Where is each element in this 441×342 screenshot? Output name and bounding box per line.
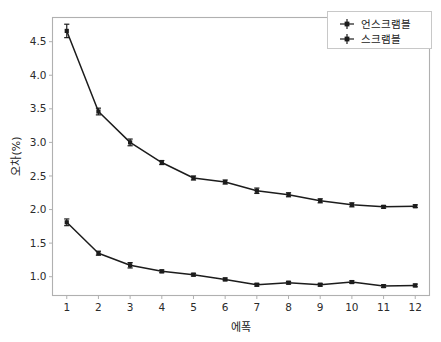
x-tick-label: 7 <box>253 301 260 313</box>
data-point-marker <box>286 281 290 285</box>
x-tick-label: 3 <box>127 301 134 313</box>
line-chart-errorbars: 1.01.52.02.53.03.54.04.5 123456789101112… <box>0 0 441 342</box>
chart-legend[interactable]: 언스크램블 스크램블 <box>328 12 432 49</box>
x-tick-label: 1 <box>63 301 70 313</box>
x-tick-label: 10 <box>345 301 358 313</box>
data-point-marker <box>160 269 164 273</box>
data-point-marker <box>191 176 195 180</box>
data-point-marker <box>318 199 322 203</box>
data-point-marker <box>413 283 417 287</box>
x-tick-label: 4 <box>158 301 165 313</box>
data-point-marker <box>350 203 354 207</box>
data-point-marker <box>286 193 290 197</box>
data-point-marker <box>255 189 259 193</box>
data-point-marker <box>255 283 259 287</box>
y-tick-label: 2.5 <box>30 170 47 182</box>
data-point-marker <box>96 109 100 113</box>
data-point-marker <box>350 280 354 284</box>
x-tick-label: 5 <box>190 301 197 313</box>
y-tick-label: 3.5 <box>30 102 47 114</box>
y-tick-label: 1.0 <box>30 270 47 282</box>
x-tick-label: 9 <box>317 301 324 313</box>
x-tick-label: 12 <box>409 301 422 313</box>
legend-marker-square-0 <box>345 22 350 27</box>
data-point-marker <box>128 140 132 144</box>
legend-label-scramble: 스크램블 <box>361 33 401 45</box>
data-point-marker <box>318 283 322 287</box>
chart-figure: 1.01.52.02.53.03.54.04.5 123456789101112… <box>0 0 441 342</box>
data-point-marker <box>223 277 227 281</box>
data-point-marker <box>65 220 69 224</box>
data-point-marker <box>65 29 69 33</box>
x-tick-label: 8 <box>285 301 292 313</box>
y-tick-label: 3.0 <box>30 136 47 148</box>
data-point-marker <box>413 204 417 208</box>
data-point-marker <box>128 263 132 267</box>
data-point-marker <box>381 205 385 209</box>
figure-background <box>0 0 441 342</box>
legend-marker-square-1 <box>345 37 350 42</box>
data-point-marker <box>381 284 385 288</box>
y-tick-label: 4.0 <box>30 69 47 81</box>
x-tick-label: 2 <box>95 301 102 313</box>
data-point-marker <box>96 251 100 255</box>
y-tick-label: 2.0 <box>30 203 47 215</box>
data-point-marker <box>160 160 164 164</box>
data-point-marker <box>223 180 227 184</box>
y-axis-title: 오차(%) <box>10 136 23 175</box>
x-tick-label: 6 <box>222 301 229 313</box>
legend-label-unscramble: 언스크램블 <box>361 18 411 30</box>
x-tick-label: 11 <box>377 301 390 313</box>
y-tick-label: 4.5 <box>30 35 47 47</box>
x-axis-title: 에폭 <box>231 321 251 334</box>
data-point-marker <box>191 273 195 277</box>
y-tick-label: 1.5 <box>30 237 47 249</box>
